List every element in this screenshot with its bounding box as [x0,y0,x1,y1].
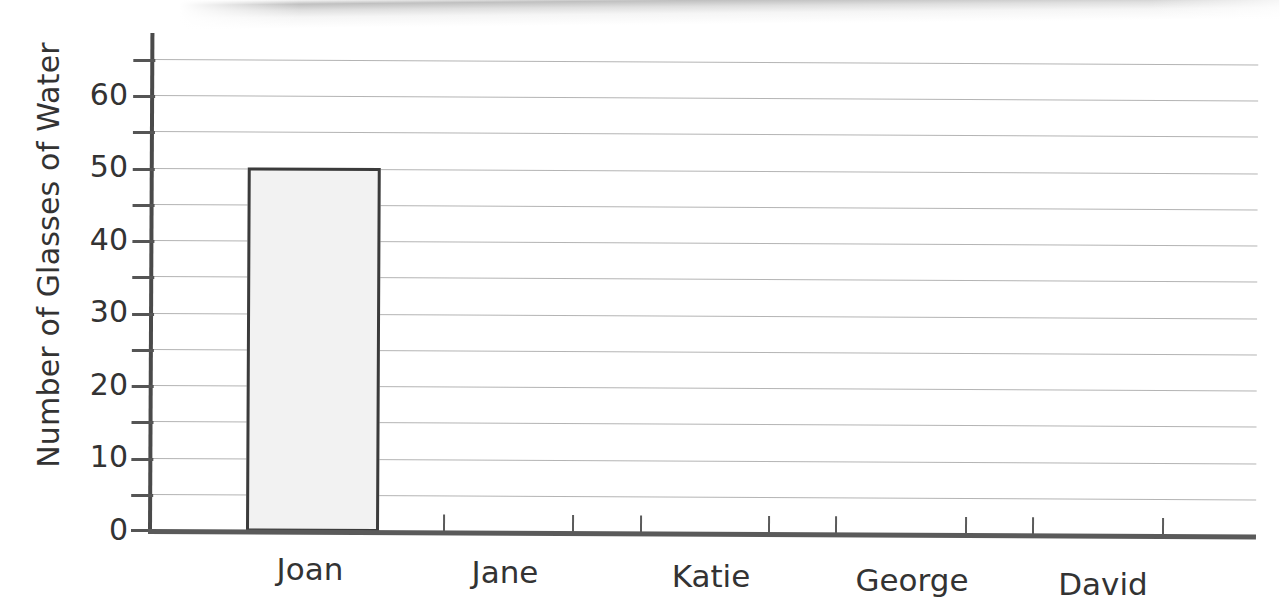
y-axis-tick [132,240,154,243]
x-axis-line [148,529,1256,539]
x-axis-tick [443,514,445,531]
x-axis-label-david: David [1023,569,1183,600]
y-axis-tick [132,385,154,388]
y-axis-tick [133,204,155,207]
gridline [152,59,1258,65]
y-axis-tick [132,421,154,424]
x-axis-tick [1162,518,1164,535]
gridline [152,95,1258,101]
x-axis-tick [572,515,574,532]
y-axis-tick [131,494,153,497]
x-axis-tick [1032,517,1034,534]
x-axis-label-jane: Jane [425,557,585,588]
y-axis-tick [133,59,155,62]
gridline [152,131,1258,137]
x-axis-tick [835,516,837,533]
y-axis-tick [132,349,154,352]
y-axis-tick [133,95,155,98]
x-axis-tick [965,517,967,534]
x-axis-tick [640,515,642,532]
x-axis-label-george: George [827,565,997,596]
bar-joan [246,167,381,532]
x-axis-label-katie: Katie [631,561,791,592]
grid-layer [0,0,1282,614]
x-axis-label-joan: Joan [230,554,390,585]
x-axis-tick [768,516,770,533]
y-axis-tick [132,276,154,279]
y-axis-tick [131,458,153,461]
y-axis-tick [132,313,154,316]
y-axis-tick [133,131,155,134]
y-axis-tick [133,168,155,171]
